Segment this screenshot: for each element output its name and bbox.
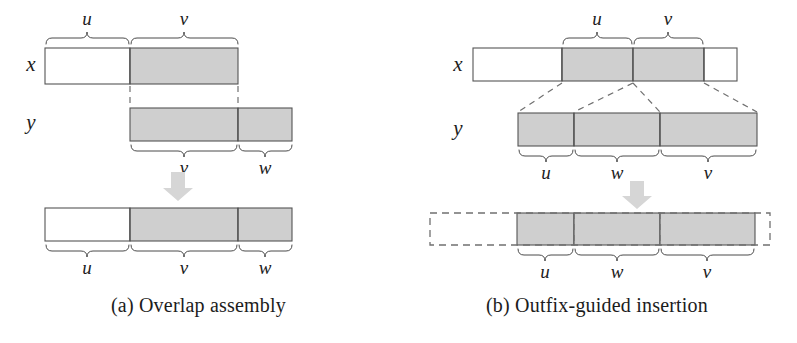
panel-a-result-brace-v <box>131 245 237 257</box>
panel-b-x-segment-prefix <box>473 48 562 81</box>
panel-a-result-brace-w <box>239 245 292 257</box>
panel-a-result-brace-label-v: v <box>180 257 189 278</box>
panel-b-y-brace-label-u: u <box>541 162 551 183</box>
panel-b-guide-1 <box>518 83 562 112</box>
panel-a-y-brace-v <box>131 145 237 157</box>
panel-b-y-brace-label-w: w <box>611 162 624 183</box>
panel-a-result-segment-v <box>130 208 238 241</box>
panel-b-guide-3 <box>633 83 660 112</box>
panel-b-brace-v <box>634 32 703 44</box>
panel-a-y-segment-w <box>238 108 292 141</box>
panel-a-y-brace-label-w: w <box>259 157 272 178</box>
panel-b-group: u v x u w <box>430 8 770 282</box>
panel-b-row-result: u w v <box>430 213 770 282</box>
panel-a-x-segment-u <box>45 48 130 84</box>
panel-b-label-y: y <box>451 116 463 140</box>
panel-b-y-brace-w <box>575 150 659 162</box>
panel-a-brace-label-v: v <box>180 8 189 29</box>
panel-b-y-segment-v <box>660 113 757 146</box>
panel-a-row-result: u v w <box>45 208 292 278</box>
panel-b-row-x: u v x <box>452 8 737 81</box>
panel-b-x-segment-v <box>633 48 704 81</box>
panel-b-brace-u <box>563 32 632 44</box>
panel-a-result-brace-u <box>46 245 129 257</box>
panel-b-brace-label-u: u <box>592 8 602 29</box>
panel-a-result-brace-label-u: u <box>82 257 92 278</box>
panel-b-down-arrow-icon <box>622 181 652 209</box>
panel-b-guide-4 <box>704 83 757 112</box>
panel-b-x-segment-suffix <box>704 48 737 81</box>
panel-b-result-segment-v <box>660 213 755 245</box>
panel-a-y-segment-v <box>130 108 238 141</box>
panel-a-row-x: u v x <box>25 8 238 84</box>
panel-b-row-y: u w v y <box>451 113 757 183</box>
figure-container: u v x v w y <box>0 0 797 343</box>
panel-b-guide-2 <box>574 83 633 112</box>
panel-b-caption: (b) Outfix-guided insertion <box>397 294 797 317</box>
panel-b-y-segment-w <box>574 113 660 146</box>
panel-a-x-segment-v <box>130 48 238 84</box>
panel-a-brace-label-u: u <box>82 8 92 29</box>
panel-a-result-segment-u <box>45 208 130 241</box>
panel-b-y-brace-label-v: v <box>704 162 713 183</box>
panel-a-label-y: y <box>24 110 36 134</box>
panel-a-y-brace-w <box>239 145 292 157</box>
panel-a-result-brace-label-w: w <box>259 257 272 278</box>
panel-b-result-segment-u <box>517 213 574 245</box>
panel-b-label-x: x <box>452 52 463 76</box>
panel-b-result-brace-u <box>518 249 573 261</box>
panel-b-x-segment-u <box>562 48 633 81</box>
panel-a-result-segment-w <box>238 208 292 241</box>
panel-b-result-segment-w <box>574 213 660 245</box>
panel-b-result-brace-v <box>661 249 754 261</box>
panel-a-brace-v <box>131 32 238 44</box>
panel-a-row-y: v w y <box>24 108 292 178</box>
panel-b-result-brace-label-u: u <box>540 261 550 282</box>
panel-b-y-brace-v <box>661 150 756 162</box>
panel-b-result-brace-label-v: v <box>703 261 712 282</box>
panel-a-group: u v x v w y <box>24 8 292 278</box>
panel-a-label-x: x <box>25 52 36 76</box>
panel-a-down-arrow-icon <box>163 172 193 201</box>
panel-b-result-brace-label-w: w <box>611 261 624 282</box>
panel-b-y-brace-u <box>519 150 573 162</box>
panel-b-y-segment-u <box>518 113 574 146</box>
panel-b-brace-label-v: v <box>664 8 673 29</box>
panel-a-brace-u <box>46 32 129 44</box>
panel-a-caption: (a) Overlap assembly <box>0 294 397 317</box>
figure-svg: u v x v w y <box>0 0 797 343</box>
panel-b-result-brace-w <box>575 249 659 261</box>
